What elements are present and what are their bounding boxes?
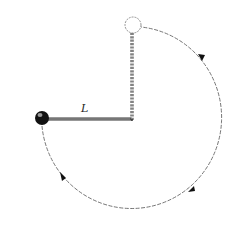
length-label: L [80,102,88,115]
arrow-icon-lower-right [188,186,195,192]
ball-top-position [125,17,141,33]
arrow-icon-lower-left [60,172,66,181]
pendulum-diagram: L [0,0,238,227]
pivot-point [131,119,133,121]
ball [35,111,49,125]
arrow-icon-upper-right [198,54,205,61]
ball-highlight [38,113,43,117]
